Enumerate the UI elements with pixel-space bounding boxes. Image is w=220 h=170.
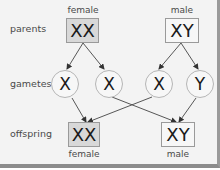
gamete-1: X bbox=[51, 70, 79, 98]
parent-female-label: female bbox=[63, 5, 103, 15]
arrow-male-to-gamete-3 bbox=[159, 43, 181, 69]
parent-male-box: XY bbox=[165, 18, 199, 43]
offspring-male-box: XY bbox=[161, 122, 195, 147]
offspring-male-label: male bbox=[158, 149, 198, 159]
arrow-female-to-gamete-2 bbox=[83, 43, 104, 69]
arrow-gamete-1-to-female bbox=[72, 98, 86, 122]
arrow-gamete-2-to-male bbox=[112, 97, 176, 122]
offspring-female-label: female bbox=[64, 149, 104, 159]
arrow-gamete-4-to-male bbox=[179, 98, 196, 122]
parent-female-box: XX bbox=[66, 18, 99, 43]
offspring-female-box: XX bbox=[68, 122, 100, 147]
gamete-2: X bbox=[95, 70, 123, 98]
parent-male-label: male bbox=[162, 5, 202, 15]
arrow-female-to-gamete-1 bbox=[67, 43, 83, 69]
row-label-gametes: gametes bbox=[10, 78, 51, 89]
arrow-gamete-3-to-female bbox=[88, 97, 152, 122]
row-label-offspring: offspring bbox=[10, 128, 52, 139]
arrow-male-to-gamete-4 bbox=[181, 43, 198, 69]
gamete-3: X bbox=[145, 70, 173, 98]
gamete-4: Y bbox=[186, 70, 214, 98]
row-label-parents: parents bbox=[10, 23, 46, 34]
